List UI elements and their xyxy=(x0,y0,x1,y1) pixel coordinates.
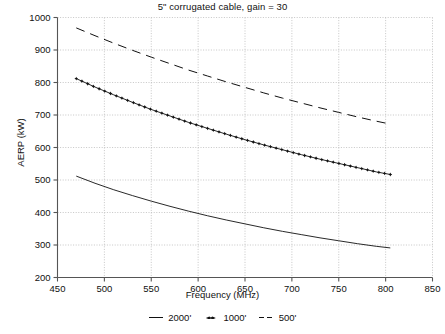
y-tick-label: 400 xyxy=(35,207,51,218)
legend-label-500: 500' xyxy=(279,312,297,323)
axis-ticks: 2003004005006007008009001000450500550600… xyxy=(29,12,440,294)
y-tick-label: 300 xyxy=(35,239,51,250)
legend-label-1000: 1000' xyxy=(223,312,246,323)
y-tick-label: 700 xyxy=(35,109,51,120)
legend-item-1000: 1000' xyxy=(204,311,247,323)
series-500ft xyxy=(76,28,390,124)
series-1000ft xyxy=(74,77,392,177)
marker-star-key-icon xyxy=(204,313,219,322)
y-tick-label: 200 xyxy=(35,272,51,283)
y-tick-label: 1000 xyxy=(29,12,50,23)
line-dashed-key-icon xyxy=(259,313,274,322)
y-axis-title: AERP (kW) xyxy=(15,93,26,193)
x-axis-title: Frequency (MHz) xyxy=(0,289,445,300)
legend-item-2000: 2000' xyxy=(149,311,192,323)
line-solid-key-icon xyxy=(149,313,164,322)
chart-container: 5ʺ corrugated cable, gain = 30 200300400… xyxy=(0,0,445,334)
y-tick-label: 800 xyxy=(35,77,51,88)
y-tick-label: 500 xyxy=(35,174,51,185)
legend-item-500: 500' xyxy=(259,311,296,323)
chart-legend: 2000' 1000' 500' xyxy=(0,311,445,323)
legend-label-2000: 2000' xyxy=(168,312,191,323)
grid-lines xyxy=(58,18,433,278)
y-tick-label: 600 xyxy=(35,142,51,153)
plot-area: 2003004005006007008009001000450500550600… xyxy=(0,0,445,334)
series-2000ft xyxy=(76,176,390,248)
y-tick-label: 900 xyxy=(35,44,51,55)
